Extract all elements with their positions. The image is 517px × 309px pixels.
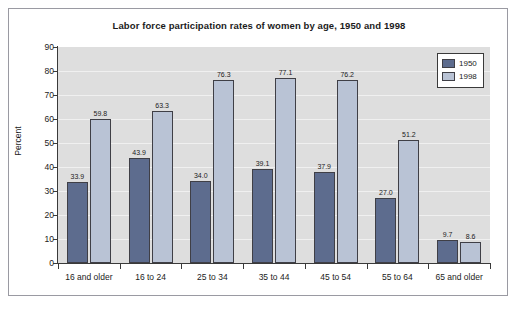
bar-value-label: 37.9 [317, 163, 331, 170]
y-axis-tick-mark [53, 191, 58, 192]
gridline [58, 191, 490, 192]
bar-value-label: 63.3 [155, 102, 169, 109]
x-axis-tick-mark [490, 264, 491, 269]
bar-1998-16-and-older [90, 119, 111, 263]
bar-1950-16-to-24 [129, 158, 150, 263]
bar-value-label: 8.6 [466, 233, 476, 240]
y-axis-tick-mark [53, 143, 58, 144]
bar-1950-25-to-34 [190, 181, 211, 263]
y-axis-tick-mark [53, 119, 58, 120]
x-axis-category-label: 25 to 34 [197, 272, 228, 282]
bar-value-label: 33.9 [71, 173, 85, 180]
y-axis-title: Percent [13, 111, 23, 171]
y-axis-tick-mark [53, 239, 58, 240]
bar-1950-55-to-64 [375, 198, 396, 263]
legend-item-1950: 1950 [442, 57, 483, 70]
x-axis-tick-mark [181, 264, 182, 269]
bar-1950-65-and-older [437, 240, 458, 263]
bar-1950-45-to-54 [314, 172, 335, 263]
chart-legend: 19501998 [437, 53, 484, 88]
x-axis-tick-mark [243, 264, 244, 269]
x-axis-category-label: 16 to 24 [135, 272, 166, 282]
legend-swatch-1950 [442, 59, 455, 68]
bar-1998-55-to-64 [398, 140, 419, 263]
y-axis-tick-label: 60 [32, 114, 54, 124]
y-axis-tick-label: 50 [32, 138, 54, 148]
y-axis-tick-label: 20 [32, 210, 54, 220]
bar-value-label: 51.2 [402, 131, 416, 138]
y-axis-tick-mark [53, 47, 58, 48]
x-axis-category-label: 55 to 64 [382, 272, 413, 282]
y-axis-tick-label: 80 [32, 66, 54, 76]
bar-value-label: 76.3 [217, 71, 231, 78]
y-axis-tick-mark [53, 167, 58, 168]
chart-figure: Labor force participation rates of women… [0, 0, 517, 309]
x-axis-category-label: 16 and older [65, 272, 112, 282]
x-axis-tick-mark [428, 264, 429, 269]
bar-value-label: 76.2 [340, 71, 354, 78]
legend-item-1998: 1998 [442, 70, 483, 83]
gridline [58, 119, 490, 120]
bar-value-label: 43.9 [132, 149, 146, 156]
chart-title: Labor force participation rates of women… [30, 20, 488, 31]
x-axis-tick-mark [120, 264, 121, 269]
legend-swatch-1998 [442, 72, 455, 81]
x-axis-category-label: 35 to 44 [259, 272, 290, 282]
y-axis-line [57, 46, 58, 264]
y-axis-tick-mark [53, 95, 58, 96]
bar-1998-35-to-44 [275, 78, 296, 263]
bar-1950-35-to-44 [252, 169, 273, 263]
y-axis-tick-label: 90 [32, 42, 54, 52]
gridline [58, 95, 490, 96]
gridline [58, 167, 490, 168]
gridline [58, 143, 490, 144]
bar-1998-45-to-54 [337, 80, 358, 263]
gridline [58, 239, 490, 240]
bar-1998-16-to-24 [152, 111, 173, 263]
y-axis-tick-label: 10 [32, 234, 54, 244]
legend-label: 1950 [459, 60, 477, 68]
bar-value-label: 34.0 [194, 172, 208, 179]
bar-value-label: 9.7 [443, 231, 453, 238]
y-axis-tick-mark [53, 263, 58, 264]
y-axis-tick-label: 0 [32, 258, 54, 268]
bar-1998-65-and-older [460, 242, 481, 263]
bar-1998-25-to-34 [213, 80, 234, 263]
plot-area [58, 47, 490, 263]
bar-value-label: 59.8 [94, 110, 108, 117]
y-axis-tick-label: 30 [32, 186, 54, 196]
gridline [58, 215, 490, 216]
x-axis-tick-mark [305, 264, 306, 269]
bar-value-label: 39.1 [256, 160, 270, 167]
y-axis-tick-label: 40 [32, 162, 54, 172]
y-axis-tick-label: 70 [32, 90, 54, 100]
y-axis-tick-labels: 0102030405060708090 [28, 0, 54, 309]
y-axis-tick-mark [53, 215, 58, 216]
x-axis-category-label: 45 to 54 [320, 272, 351, 282]
bar-value-label: 27.0 [379, 189, 393, 196]
gridline [58, 71, 490, 72]
x-axis-line [57, 263, 491, 264]
x-axis-tick-mark [367, 264, 368, 269]
bar-1950-16-and-older [67, 182, 88, 263]
x-axis-category-label: 65 and older [436, 272, 483, 282]
x-axis-tick-mark [58, 264, 59, 269]
bar-value-label: 77.1 [279, 69, 293, 76]
y-axis-tick-mark [53, 71, 58, 72]
legend-label: 1998 [459, 73, 477, 81]
